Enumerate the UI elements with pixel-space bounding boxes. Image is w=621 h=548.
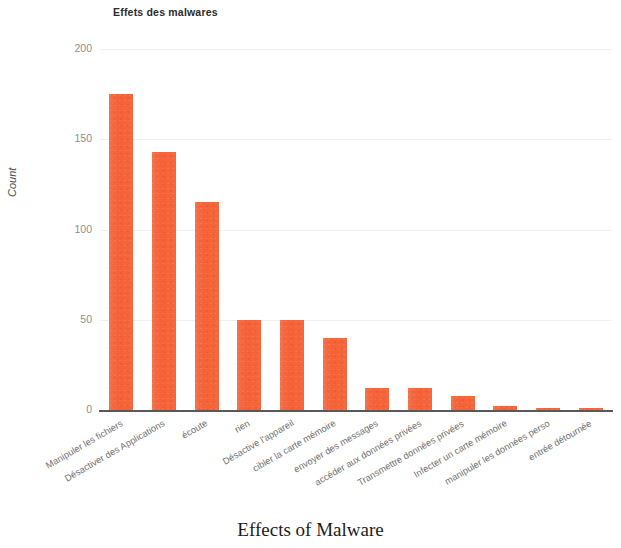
x-tick-label: manipuler les données perso xyxy=(443,418,551,486)
y-tick-label: 200 xyxy=(52,42,92,54)
y-tick-label: 50 xyxy=(52,313,92,325)
y-tick-label: 100 xyxy=(52,223,92,235)
chart-figure: Effets des malwares Count 050100150200 M… xyxy=(0,0,621,548)
x-axis-line xyxy=(99,410,613,412)
chart-title: Effets des malwares xyxy=(113,6,218,18)
gridline xyxy=(100,139,612,140)
y-tick-label: 150 xyxy=(52,132,92,144)
gridline xyxy=(100,230,612,231)
y-tick-label: 0 xyxy=(52,403,92,415)
bar xyxy=(109,94,133,410)
bar xyxy=(451,396,475,410)
x-tick-label: cibler la carte mémoire xyxy=(251,418,337,474)
bar xyxy=(280,320,304,410)
x-tick-label: envoyer des messages xyxy=(292,418,380,474)
x-tick-label: Désactive l'appareil xyxy=(221,418,296,467)
x-tick-label: rien xyxy=(233,418,251,434)
bar xyxy=(195,202,219,410)
x-tick-label: entrée détournée xyxy=(527,418,593,462)
bar xyxy=(237,320,261,410)
bar xyxy=(323,338,347,410)
x-tick-label: accéder aux données privées xyxy=(313,418,423,487)
x-tick-label: Manipuler les fichiers xyxy=(44,418,125,470)
x-tick-label: écoute xyxy=(180,418,209,441)
gridline xyxy=(100,49,612,50)
x-tick-label: Désactiver des Applications xyxy=(63,418,166,484)
y-axis-label: Count xyxy=(6,168,18,197)
plot-area xyxy=(100,49,612,410)
figure-caption: Effects of Malware xyxy=(0,519,621,541)
bar xyxy=(408,388,432,410)
bar xyxy=(152,152,176,410)
gridline xyxy=(100,320,612,321)
x-tick-label: Transmettre données privées xyxy=(356,418,465,487)
bar xyxy=(365,388,389,410)
x-tick-label: Infecter un carte mémoire xyxy=(412,418,509,480)
